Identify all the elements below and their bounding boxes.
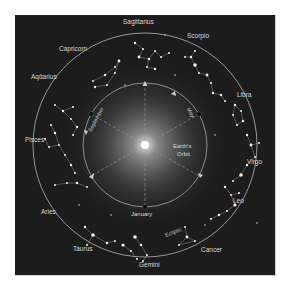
- label-virgo: Virgo: [247, 159, 262, 166]
- label-scorpio: Scorpio: [187, 33, 209, 40]
- label-pisces: Pisces: [25, 137, 44, 144]
- label-earths-orbit-line1: Earth's: [173, 143, 192, 149]
- sun-icon: [141, 141, 149, 149]
- label-january: January: [131, 211, 152, 217]
- label-earths-orbit-line2: Orbit: [177, 151, 190, 157]
- label-taurus: Taurus: [73, 246, 93, 253]
- label-sagittarius: Sagittarius: [123, 19, 154, 26]
- label-aquarius: Aquarius: [31, 74, 57, 81]
- label-libra: Libra: [237, 92, 251, 99]
- label-capricorn: Capricorn: [59, 46, 87, 53]
- zodiac-diagram-graphic: [15, 15, 275, 275]
- label-gemini: Gemini: [139, 262, 160, 269]
- zodiac-diagram-panel: Sagittarius Scorpio Libra Virgo Leo Canc…: [15, 15, 276, 276]
- label-leo: Leo: [233, 198, 244, 205]
- label-cancer: Cancer: [201, 247, 222, 254]
- label-aries: Aries: [41, 209, 56, 216]
